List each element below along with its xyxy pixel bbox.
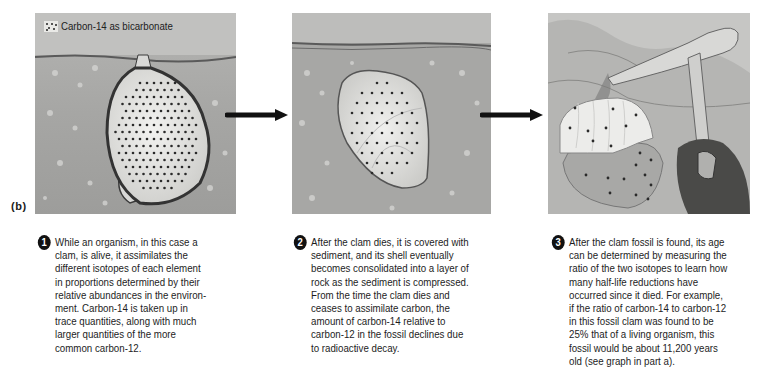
caption-line: larger quantities of the more xyxy=(55,328,206,341)
caption-line: fossil would be about 11,200 years xyxy=(569,342,727,355)
caption-line: if the ratio of carbon-14 to carbon-12 xyxy=(569,302,727,315)
caption-line: clam, is alive, it assimilates the xyxy=(55,249,206,262)
caption-line: occurred since it died. For example, xyxy=(569,289,727,302)
panel-fossil-excavation xyxy=(548,13,750,214)
caption-line: carbon-12 in the fossil declines due xyxy=(311,328,469,341)
fossil-excavation-illustration xyxy=(548,13,750,214)
part-label: (b) xyxy=(11,200,27,212)
caption-line: After the clam dies, it is covered with xyxy=(311,236,469,249)
caption-line: relative abundances in the environ- xyxy=(55,289,206,302)
legend-label: Carbon-14 as bicarbonate xyxy=(61,20,173,32)
right-arrow-icon xyxy=(480,108,544,122)
caption-step-2: 2 After the clam dies, it is covered wit… xyxy=(311,236,469,355)
buried-clam-illustration xyxy=(292,13,491,214)
caption-line: ceases to assimilate carbon, the xyxy=(311,302,469,315)
caption-line: can be determined by measuring the xyxy=(569,249,727,262)
caption-line: ment. Carbon-14 is taken up in xyxy=(55,302,206,315)
caption-line: After the clam fossil is found, its age xyxy=(569,236,727,249)
caption-line: becomes consolidated into a layer of xyxy=(311,262,469,275)
caption-line: in proportions determined by their xyxy=(55,276,206,289)
right-arrow-icon xyxy=(225,108,289,122)
caption-line: many half-life reductions have xyxy=(569,276,727,289)
dotted-square-icon xyxy=(44,21,58,32)
caption-line: From the time the clam dies and xyxy=(311,289,469,302)
caption-line: trace quantities, along with much xyxy=(55,315,206,328)
caption-step-1: 1 While an organism, in this case a clam… xyxy=(55,236,206,355)
living-clam-illustration xyxy=(35,13,236,214)
step-number-badge: 3 xyxy=(552,235,565,250)
caption-line: While an organism, in this case a xyxy=(55,236,206,249)
caption-line: common carbon-12. xyxy=(55,342,206,355)
caption-line: rock as the sediment is compressed. xyxy=(311,276,469,289)
caption-line: amount of carbon-14 relative to xyxy=(311,315,469,328)
caption-line: different isotopes of each element xyxy=(55,262,206,275)
caption-line: 25% that of a living organism, this xyxy=(569,328,727,341)
caption-line: to radioactive decay. xyxy=(311,342,469,355)
panel-buried-clam xyxy=(292,13,491,214)
caption-step-3: 3 After the clam fossil is found, its ag… xyxy=(569,236,727,368)
caption-line: sediment, and its shell eventually xyxy=(311,249,469,262)
legend: Carbon-14 as bicarbonate xyxy=(44,20,188,32)
panel-living-clam: Carbon-14 as bicarbonate xyxy=(35,13,236,214)
step-number-badge: 2 xyxy=(294,235,307,250)
caption-line: ratio of the two isotopes to learn how xyxy=(569,262,727,275)
caption-line: old (see graph in part a). xyxy=(569,355,727,368)
step-number-badge: 1 xyxy=(38,235,51,250)
caption-line: in this fossil clam was found to be xyxy=(569,315,727,328)
